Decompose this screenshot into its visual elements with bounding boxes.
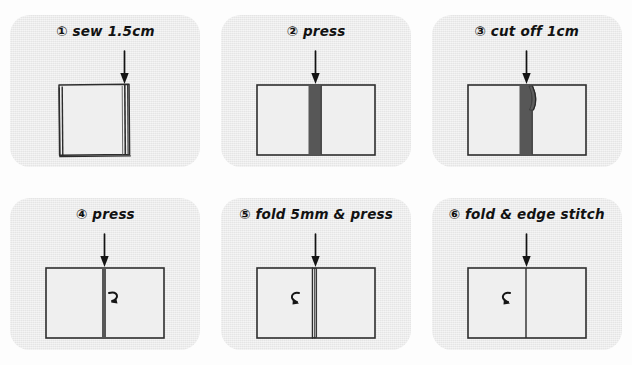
step-illustration-2 <box>221 15 411 167</box>
down-arrow-icon <box>311 51 319 84</box>
step-illustration-6 <box>432 198 622 350</box>
panel-cell-4: ④ press <box>0 183 211 365</box>
step-card-2[interactable]: ② press <box>221 15 411 167</box>
step-card-4[interactable]: ④ press <box>10 198 200 350</box>
panel-cell-2: ② press <box>211 0 422 183</box>
panel-grid: ① sew 1.5cm <box>0 0 632 365</box>
down-arrow-icon <box>101 234 109 267</box>
panel-cell-3: ③ cut off 1cm <box>421 0 632 183</box>
step-illustration-1 <box>10 15 200 167</box>
folded-edge-seam <box>312 267 316 338</box>
step-illustration-5 <box>221 198 411 350</box>
down-arrow-icon <box>121 51 129 84</box>
center-seam-line <box>102 268 106 337</box>
pressed-seam-strip <box>308 86 321 155</box>
panel-cell-6: ⑥ fold & edge stitch <box>421 183 632 365</box>
down-arrow-icon <box>311 234 319 267</box>
step-card-1[interactable]: ① sew 1.5cm <box>10 15 200 167</box>
down-arrow-icon <box>522 51 530 84</box>
tutorial-sheet: ① sew 1.5cm <box>0 0 632 365</box>
step-card-6[interactable]: ⑥ fold & edge stitch <box>432 198 622 350</box>
panel-cell-1: ① sew 1.5cm <box>0 0 211 183</box>
down-arrow-icon <box>522 234 530 267</box>
fabric-portrait-rect <box>59 84 131 156</box>
step-card-3[interactable]: ③ cut off 1cm <box>432 15 622 167</box>
panel-cell-5: ⑤ fold 5mm & press <box>211 183 422 365</box>
step-card-5[interactable]: ⑤ fold 5mm & press <box>221 198 411 350</box>
step-illustration-4 <box>10 198 200 350</box>
step-illustration-3 <box>432 15 622 167</box>
fabric-landscape-rect <box>468 268 586 338</box>
